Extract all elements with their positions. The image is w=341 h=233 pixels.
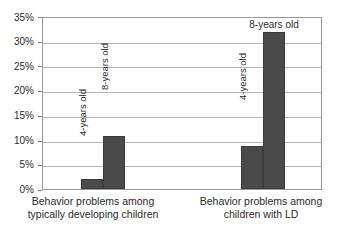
category-label-group2: Behavior problems among children with LD bbox=[181, 195, 341, 221]
y-tick-label-0: 0% bbox=[20, 185, 34, 195]
bar-label-group1-4-years: 4-years old bbox=[78, 89, 88, 136]
y-tick-label-25: 25% bbox=[14, 62, 34, 72]
bar-chart: 35% 30% 25% 20% 15% 10% 5% 0% bbox=[0, 0, 341, 233]
bar-group1-4-years bbox=[81, 179, 103, 189]
category-label-group1-line1: Behavior problems among bbox=[8, 195, 178, 208]
bar-group2-8-years bbox=[263, 32, 285, 189]
y-tick-label-10: 10% bbox=[14, 136, 34, 146]
bar-group2-4-years bbox=[241, 146, 263, 190]
y-tick-label-30: 30% bbox=[14, 37, 34, 47]
plot-area: 4-years old 8-years old 4-years old 8-ye… bbox=[42, 17, 322, 190]
bar-label-group1-8-years: 8-years old bbox=[100, 43, 110, 90]
y-tick-mark-0 bbox=[38, 190, 42, 191]
bar-group1-8-years bbox=[103, 136, 125, 189]
category-label-group2-line1: Behavior problems among bbox=[181, 195, 341, 208]
bar-label-group2-4-years: 4-years old bbox=[238, 53, 248, 100]
y-tick-label-35: 35% bbox=[14, 13, 34, 23]
y-tick-label-20: 20% bbox=[14, 86, 34, 96]
category-label-group1: Behavior problems among typically develo… bbox=[8, 195, 178, 221]
category-label-group2-line2: children with LD bbox=[181, 208, 341, 221]
y-tick-label-15: 15% bbox=[14, 111, 34, 121]
category-label-group1-line2: typically developing children bbox=[8, 208, 178, 221]
bar-label-group2-8-years: 8-years old bbox=[224, 19, 324, 30]
y-tick-label-5: 5% bbox=[20, 160, 34, 170]
